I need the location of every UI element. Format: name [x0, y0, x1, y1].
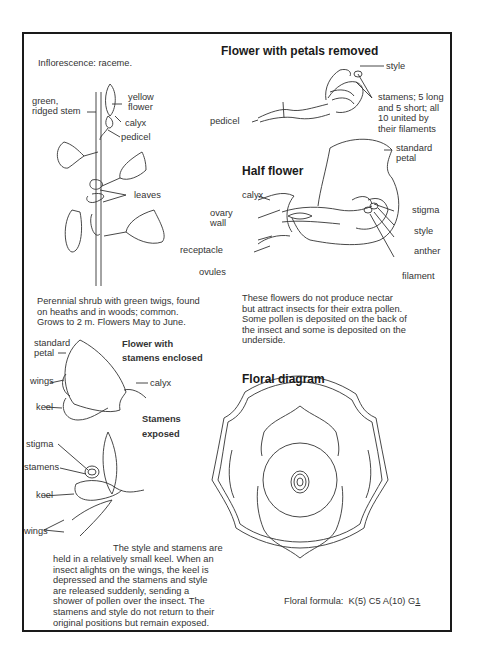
heading-floral-diagram: Floral diagram [242, 372, 325, 386]
floral-formula-label: Floral formula: [284, 596, 343, 606]
label-stigma-half: stigma [412, 205, 439, 216]
label-ovary-wall: ovary wall [210, 208, 233, 228]
heading-stamens-enclosed: Flower with stamens enclosed [122, 337, 203, 365]
heading-petals-removed: Flower with petals removed [221, 44, 378, 58]
floral-formula-value: K(5) C5 A(10) G [349, 596, 416, 606]
label-calyx: calyx [125, 118, 146, 129]
label-ovules: ovules [199, 267, 226, 278]
label-keel-enclosed: keel [36, 402, 53, 413]
label-receptacle: receptacle [180, 245, 223, 256]
label-stamens-detail: stamens; 5 long and 5 short; all 10 unit… [378, 92, 444, 134]
label-stamens-exposed: stamens [24, 462, 59, 473]
label-wings-enclosed: wings [30, 376, 54, 387]
label-filament: filament [402, 271, 435, 282]
label-standard-petal-enclosed: standard petal [34, 338, 70, 358]
label-keel-exposed: keel [36, 490, 53, 501]
label-style-top: style [386, 61, 405, 72]
label-green-ridged-stem: green, ridged stem [32, 96, 81, 116]
stamens-exposed-description: held in a relatively small keel. When an… [53, 554, 214, 628]
heading-stamens-exposed: Stamens exposed [142, 412, 181, 442]
floral-diagram-drawing [212, 376, 388, 558]
stamens-exposed-description-first: The style and stamens are [113, 543, 223, 554]
label-calyx-half: calyx [242, 190, 263, 201]
inflorescence-text: Inflorescence: raceme. [38, 58, 132, 69]
half-flower-drawing [258, 139, 399, 244]
label-pedicel-top: pedicel [210, 116, 239, 127]
label-pedicel: pedicel [121, 132, 150, 143]
label-wings-exposed: wings [24, 526, 48, 537]
label-standard-petal: standard petal [396, 143, 432, 163]
heading-half-flower: Half flower [242, 164, 303, 178]
label-anther: anther [414, 246, 440, 257]
floral-formula-gynoecium: 1 [415, 596, 420, 606]
label-yellow-flower: yellow flower [128, 92, 154, 112]
label-leaves: leaves [134, 190, 161, 201]
stamens-exposed-drawing [72, 432, 144, 536]
label-stigma-exposed: stigma [26, 439, 53, 450]
floral-formula: Floral formula: K(5) C5 A(10) G1 [284, 596, 420, 607]
plant-description: Perennial shrub with green twigs, found … [37, 296, 200, 328]
petals-removed-drawing [258, 69, 363, 122]
label-calyx-enclosed: calyx [150, 378, 171, 389]
label-style-half: style [414, 226, 433, 237]
half-flower-description: These flowers do not produce nectar but … [242, 293, 407, 346]
